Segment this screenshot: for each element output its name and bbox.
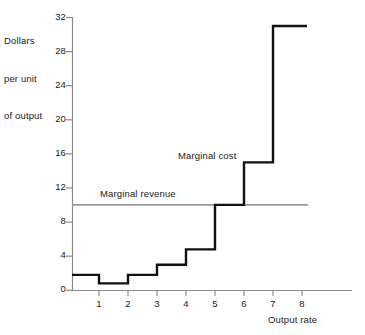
y-axis-ticks — [66, 18, 72, 291]
x-axis-title: Output rate — [268, 314, 317, 325]
marginal-cost-label: Marginal cost — [178, 150, 236, 161]
chart-container: Dollars per unit of output 32 28 24 20 1… — [0, 0, 365, 335]
marginal-revenue-label: Marginal revenue — [100, 188, 176, 199]
chart-plot-area — [0, 0, 365, 335]
